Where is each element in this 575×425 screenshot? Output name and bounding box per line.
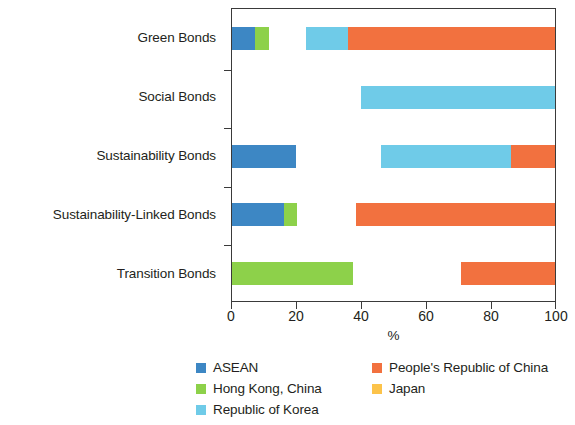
- legend-label: ASEAN: [213, 360, 258, 375]
- bar-segment: [306, 27, 348, 50]
- legend-label: Republic of Korea: [213, 402, 319, 417]
- x-axis-tick-label: 60: [418, 308, 434, 324]
- y-axis-label: Social Bonds: [138, 89, 216, 104]
- bar-segment: [461, 262, 555, 285]
- legend-label: Japan: [389, 381, 425, 396]
- x-axis-tick-label: 0: [227, 308, 235, 324]
- bar-social-bonds: [232, 86, 555, 109]
- bar-segment: [255, 27, 269, 50]
- chart-legend: ASEANHong Kong, ChinaRepublic of Korea P…: [196, 357, 575, 423]
- bar-segment: [232, 145, 296, 168]
- y-axis-label: Sustainability Bonds: [96, 148, 216, 163]
- bar-sustainability-bonds: [232, 145, 555, 168]
- x-axis-tick-label: 20: [288, 308, 304, 324]
- legend-label: People's Republic of China: [389, 360, 548, 375]
- bar-segment: [356, 203, 555, 226]
- bar-segment: [361, 86, 555, 109]
- legend-color-swatch-icon: [372, 363, 382, 373]
- legend-column-left: ASEANHong Kong, ChinaRepublic of Korea: [196, 357, 322, 420]
- bar-segment: [353, 262, 461, 285]
- legend-color-swatch-icon: [372, 384, 382, 394]
- legend-item[interactable]: People's Republic of China: [372, 357, 548, 378]
- legend-color-swatch-icon: [196, 384, 206, 394]
- bar-transition-bonds: [232, 262, 555, 285]
- plot-area: [231, 8, 556, 302]
- legend-item[interactable]: ASEAN: [196, 357, 322, 378]
- x-axis-tick-labels: 020406080100: [186, 308, 575, 330]
- bar-segment: [511, 145, 555, 168]
- y-axis-tick: [224, 70, 231, 71]
- x-axis-tick-label: 40: [353, 308, 369, 324]
- x-axis-tick-label: 80: [483, 308, 499, 324]
- bar-segment: [284, 203, 297, 226]
- bar-segment: [232, 262, 353, 285]
- legend-item[interactable]: Japan: [372, 378, 548, 399]
- bar-segment: [232, 27, 255, 50]
- legend-item[interactable]: Hong Kong, China: [196, 378, 322, 399]
- bar-segment: [381, 145, 511, 168]
- y-axis-tick: [224, 128, 231, 129]
- y-axis-label: Sustainability-Linked Bonds: [53, 206, 216, 221]
- bar-segment: [269, 27, 306, 50]
- y-axis-tick: [224, 245, 231, 246]
- x-axis-title: %: [231, 328, 556, 343]
- bar-segment: [232, 203, 284, 226]
- bar-segment: [296, 145, 382, 168]
- y-axis-label: Green Bonds: [138, 30, 216, 45]
- legend-item[interactable]: Republic of Korea: [196, 399, 322, 420]
- bar-segment: [232, 86, 361, 109]
- bar-segment: [348, 27, 555, 50]
- legend-color-swatch-icon: [196, 363, 206, 373]
- y-axis-category-labels: Green BondsSocial BondsSustainability Bo…: [0, 8, 224, 302]
- stacked-bar-chart: Green BondsSocial BondsSustainability Bo…: [0, 0, 575, 425]
- y-axis-label: Transition Bonds: [117, 265, 216, 280]
- y-axis-tick: [224, 187, 231, 188]
- x-axis-tick-label: 100: [544, 308, 567, 324]
- bar-sustainability-linked-bonds: [232, 203, 555, 226]
- bar-green-bonds: [232, 27, 555, 50]
- legend-column-right: People's Republic of ChinaJapan: [372, 357, 548, 399]
- legend-color-swatch-icon: [196, 405, 206, 415]
- bar-segment: [297, 203, 357, 226]
- legend-label: Hong Kong, China: [213, 381, 322, 396]
